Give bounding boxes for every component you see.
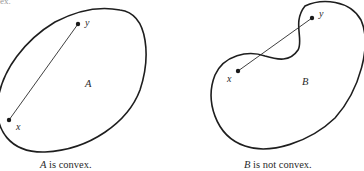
caption-a: A is convex.: [39, 159, 92, 170]
point-x-b: [236, 69, 240, 73]
point-x-a: [7, 118, 11, 122]
figure-a-convex-set: y x A A is convex.: [0, 9, 146, 171]
point-y-b: [310, 16, 314, 20]
caption-b: B is not convex.: [244, 159, 312, 170]
segment-x-to-y-a: [9, 24, 78, 120]
caption-a-text: is convex.: [46, 159, 91, 170]
figure-b-nonconvex-set: y x B B is not convex.: [211, 2, 364, 170]
label-x-a: x: [15, 121, 21, 132]
set-label-a: A: [84, 78, 92, 89]
set-a-boundary: [0, 9, 146, 153]
set-b-boundary: [211, 2, 364, 149]
set-label-b: B: [302, 76, 309, 87]
label-y-a: y: [84, 17, 90, 28]
cut-off-text-fragment: ex.: [0, 0, 11, 6]
segment-x-to-y-b: [238, 18, 312, 71]
caption-b-text: is not convex.: [250, 159, 311, 170]
convexity-diagram: ex. y x A A is convex. y x B B is not co…: [0, 0, 364, 171]
point-y-a: [76, 22, 80, 26]
label-y-b: y: [318, 8, 324, 19]
label-x-b: x: [226, 73, 232, 84]
